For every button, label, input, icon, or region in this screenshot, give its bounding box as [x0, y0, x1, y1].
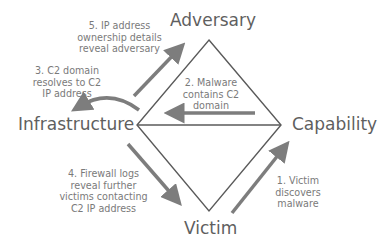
- note-line: 4. Firewall logs: [56, 168, 151, 180]
- note-line: 3. C2 domain: [27, 65, 107, 77]
- node-infrastructure: Infrastructure: [18, 114, 134, 134]
- note-step2: 2. Malware contains C2 domain: [176, 77, 246, 112]
- note-line: discovers: [268, 187, 328, 199]
- note-line: resolves to C2: [27, 77, 107, 89]
- note-line: C2 IP address: [56, 203, 151, 215]
- note-line: 1. Victim: [268, 175, 328, 187]
- note-line: victims contacting: [56, 191, 151, 203]
- note-line: reveal adversary: [72, 43, 167, 55]
- arrow-step3: [80, 98, 139, 110]
- note-step1: 1. Victim discovers malware: [268, 175, 328, 210]
- note-line: malware: [268, 198, 328, 210]
- note-line: reveal further: [56, 180, 151, 192]
- node-adversary: Adversary: [170, 10, 256, 30]
- node-capability: Capability: [292, 114, 377, 134]
- note-line: IP address: [27, 88, 107, 100]
- note-line: 5. IP address: [72, 20, 167, 32]
- note-step5: 5. IP address ownership details reveal a…: [72, 20, 167, 55]
- arrow-step5: [134, 50, 178, 96]
- note-line: domain: [176, 100, 246, 112]
- note-line: ownership details: [72, 32, 167, 44]
- note-step4: 4. Firewall logs reveal further victims …: [56, 168, 151, 214]
- node-victim: Victim: [184, 218, 237, 238]
- note-step3: 3. C2 domain resolves to C2 IP address: [27, 65, 107, 100]
- note-line: contains C2: [176, 89, 246, 101]
- note-line: 2. Malware: [176, 77, 246, 89]
